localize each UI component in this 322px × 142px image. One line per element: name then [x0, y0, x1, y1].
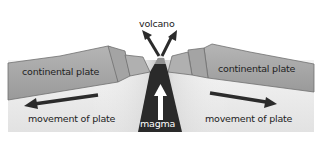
left-plate-label: continental plate	[22, 67, 99, 77]
right-movement-label: movement of plate	[205, 114, 292, 124]
volcano-arrows-icon	[142, 30, 177, 56]
left-movement-label: movement of plate	[28, 114, 115, 124]
plate-boundary-diagram: volcano continental plate continental pl…	[0, 0, 322, 142]
volcano-label: volcano	[139, 19, 175, 29]
right-plate-label: continental plate	[218, 64, 295, 74]
magma-label: magma	[140, 119, 175, 129]
